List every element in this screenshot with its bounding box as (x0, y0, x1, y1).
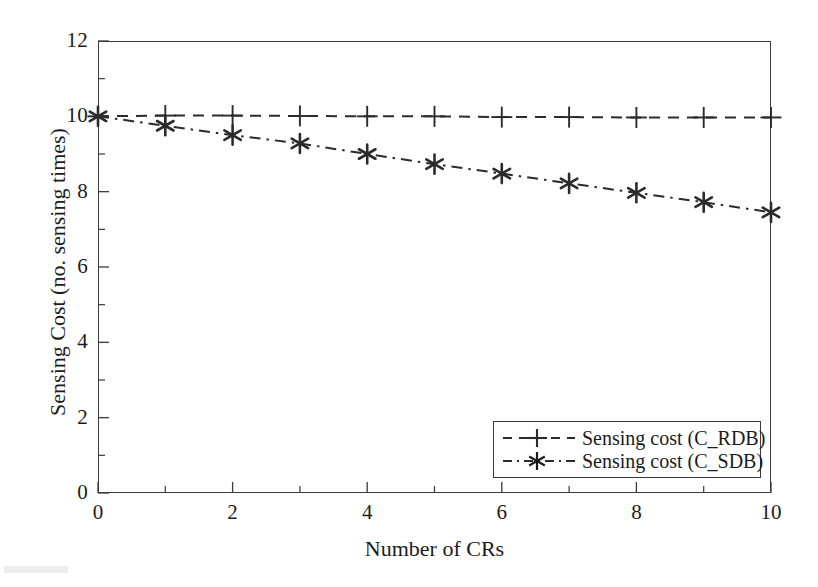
legend-sample-plus-dashed (502, 427, 576, 449)
x-tick-label: 2 (203, 502, 263, 523)
x-tick-label: 8 (606, 502, 666, 523)
x-tick-label: 10 (741, 502, 801, 523)
legend-sample-asterisk-dashdot (502, 450, 576, 472)
x-axis-title: Number of CRs (98, 536, 771, 562)
scan-artifact (4, 566, 68, 573)
x-tick-label: 0 (68, 502, 128, 523)
x-tick-label: 6 (472, 502, 532, 523)
legend-label-c-rdb: Sensing cost (C_RDB) (582, 427, 765, 449)
x-axis-tick-labels: 0246810 (0, 502, 818, 532)
series-layer (88, 105, 782, 222)
legend-label-c-sdb: Sensing cost (C_SDB) (582, 450, 763, 472)
y-axis-title: Sensing Cost (no. sensing times) (45, 46, 71, 498)
chart-canvas (0, 0, 818, 587)
series-1 (88, 105, 782, 128)
chart-figure: 024681012 0246810 Number of CRs Sensing … (0, 0, 818, 587)
legend-item-c-rdb: Sensing cost (C_RDB) (502, 426, 752, 449)
legend-item-c-sdb: Sensing cost (C_SDB) (502, 449, 752, 472)
x-tick-label: 4 (337, 502, 397, 523)
chart-legend: Sensing cost (C_RDB) Sensing cost (C_SDB… (493, 421, 761, 478)
